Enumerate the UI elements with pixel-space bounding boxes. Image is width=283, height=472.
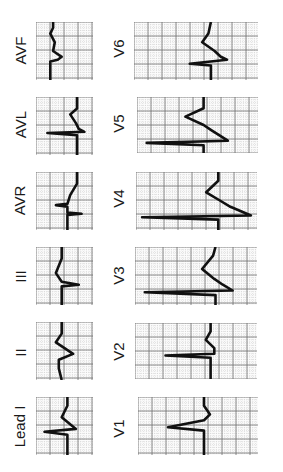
lead-label-v3: V3 [110,266,127,284]
ecg-trace [45,397,76,455]
lead-label-v6: V6 [110,39,127,57]
ecg-grid [136,172,257,230]
ecg-panel-avl [36,97,93,155]
ecg-panel-avf [36,22,93,80]
lead-label-iii: III [11,270,28,283]
ecg-panel-ii [36,322,93,380]
ecg-panel-iii [36,247,93,305]
ecg-panel-v2 [135,323,257,379]
lead-label-v2: V2 [110,342,127,360]
ecg-trace [50,22,61,80]
ecg-grid [36,397,93,455]
lead-label-v4: V4 [110,189,127,207]
ecg-grid [138,397,258,455]
ecg-grid [36,322,93,380]
ecg-grid [36,247,93,305]
ecg-panel-v4 [136,172,257,230]
ecg-grid [135,247,257,305]
ecg-grid [36,172,93,230]
lead-label-v1: V1 [110,419,127,437]
ecg-grid [137,97,258,153]
ecg-grid [135,323,257,379]
ecg-panel-v3 [135,247,257,305]
ecg-panel-v5 [137,97,258,153]
lead-label-ii: II [12,348,29,356]
ecg-grid [36,97,93,155]
lead-label-avr: AVR [11,185,28,215]
ecg-panel-avr [36,172,93,230]
lead-label-avf: AVF [12,36,29,64]
ecg-panel-v1 [138,397,258,455]
lead-label-i: Lead I [11,405,28,447]
ecg-grid [134,22,258,80]
ecg-trace [145,247,233,305]
ecg-panel-v6 [134,22,258,80]
ecg-grid [36,22,93,80]
lead-label-v5: V5 [110,114,127,132]
ecg-panel-i [36,397,93,455]
lead-label-avl: AVL [12,110,29,137]
